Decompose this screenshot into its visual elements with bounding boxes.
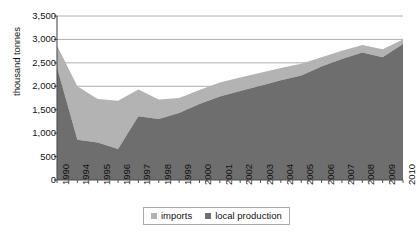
x-axis-tick-label: 1990: [61, 164, 70, 185]
x-axis-tick-label: 2006: [326, 164, 335, 185]
chart-legend: importslocal production: [143, 207, 290, 225]
legend-swatch-icon: [205, 213, 211, 219]
y-axis-tick-label: 2,500: [22, 58, 56, 67]
y-axis-tick-label: 3,500: [22, 11, 56, 20]
x-axis-tick-label: 2010: [407, 164, 416, 185]
x-axis-tick-label: 2000: [203, 164, 212, 185]
x-axis-tick-label: 1998: [163, 164, 172, 185]
y-axis-tick-label: 3,000: [22, 34, 56, 43]
x-axis-tick-label: 2008: [366, 164, 375, 185]
legend-item-label: local production: [215, 210, 282, 221]
x-axis-tick-label: 1996: [122, 164, 131, 185]
y-axis-tick-labels: 05001,0001,5002,0002,5003,0003,500: [22, 0, 56, 238]
x-axis-tick-label: 1995: [102, 164, 111, 185]
y-axis-tick-label: 1,500: [22, 105, 56, 114]
x-axis-tick-label: 2007: [346, 164, 355, 185]
x-axis-tick-label: 2004: [285, 164, 294, 185]
x-axis-tick-label: 2002: [244, 164, 253, 185]
y-axis-title: thousand tonnes: [11, 2, 22, 122]
y-axis-tick-label: 0: [22, 175, 56, 184]
legend-swatch-icon: [151, 213, 157, 219]
x-axis-tick-label: 1999: [183, 164, 192, 185]
legend-item[interactable]: local production: [205, 210, 282, 221]
x-axis-tick-label: 2009: [387, 164, 396, 185]
x-axis-tick-label: 2005: [305, 164, 314, 185]
x-axis-tick-label: 2001: [224, 164, 233, 185]
legend-item[interactable]: imports: [151, 210, 192, 221]
x-axis-tick-label: 1994: [81, 164, 90, 185]
x-axis-tick-label: 1997: [142, 164, 151, 185]
y-axis-tick-label: 500: [22, 152, 56, 161]
y-axis-tick-label: 2,000: [22, 81, 56, 90]
legend-item-label: imports: [161, 210, 192, 221]
x-axis-tick-label: 2003: [265, 164, 274, 185]
y-axis-tick-label: 1,000: [22, 128, 56, 137]
